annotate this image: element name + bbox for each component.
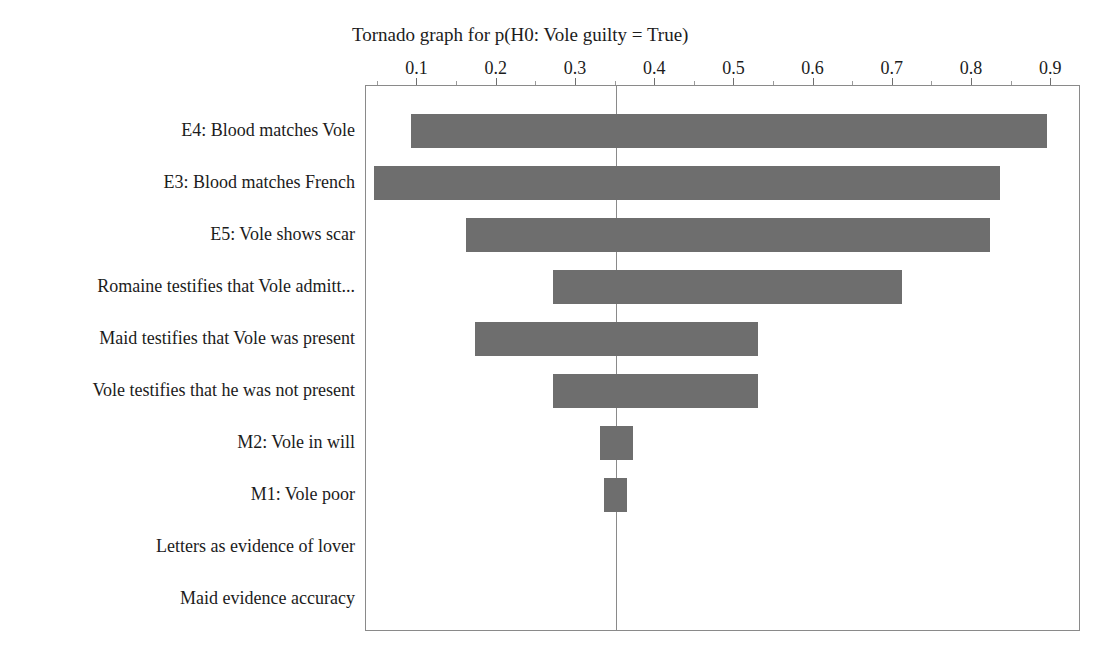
plot-area [365, 85, 1080, 631]
tornado-bar [600, 426, 633, 460]
x-tick-mark [971, 78, 972, 85]
category-label: Maid evidence accuracy [0, 581, 355, 615]
category-label: M1: Vole poor [0, 477, 355, 511]
tornado-bar [374, 166, 1000, 200]
tornado-bar [604, 478, 628, 512]
x-tick-mark [1050, 78, 1051, 85]
x-tick-mark [892, 78, 893, 85]
category-label: M2: Vole in will [0, 425, 355, 459]
x-tick-mark [575, 78, 576, 85]
x-tick-label: 0.3 [564, 58, 587, 79]
x-tick-label: 0.7 [881, 58, 904, 79]
x-tick-mark [654, 78, 655, 85]
chart-title: Tornado graph for p(H0: Vole guilty = Tr… [352, 24, 688, 46]
x-tick-label: 0.8 [960, 58, 983, 79]
tornado-bar [553, 374, 758, 408]
category-label: Maid testifies that Vole was present [0, 321, 355, 355]
x-tick-label: 0.2 [484, 58, 507, 79]
category-label: Romaine testifies that Vole admitt... [0, 269, 355, 303]
x-tick-label: 0.4 [643, 58, 666, 79]
y-axis-category-labels: E4: Blood matches VoleE3: Blood matches … [0, 85, 355, 631]
tornado-bar [466, 218, 990, 252]
x-tick-mark [733, 78, 734, 85]
x-tick-mark [416, 78, 417, 85]
tornado-bar [553, 270, 902, 304]
tornado-bar [475, 322, 759, 356]
x-tick-mark [496, 78, 497, 85]
category-label: Letters as evidence of lover [0, 529, 355, 563]
x-tick-label: 0.1 [405, 58, 428, 79]
category-label: E4: Blood matches Vole [0, 113, 355, 147]
x-tick-label: 0.9 [1039, 58, 1062, 79]
tornado-chart-figure: Tornado graph for p(H0: Vole guilty = Tr… [0, 0, 1112, 671]
x-tick-label: 0.6 [801, 58, 824, 79]
tornado-bar [411, 114, 1047, 148]
x-tick-label: 0.5 [722, 58, 745, 79]
category-label: E5: Vole shows scar [0, 217, 355, 251]
category-label: Vole testifies that he was not present [0, 373, 355, 407]
category-label: E3: Blood matches French [0, 165, 355, 199]
x-tick-mark [813, 78, 814, 85]
